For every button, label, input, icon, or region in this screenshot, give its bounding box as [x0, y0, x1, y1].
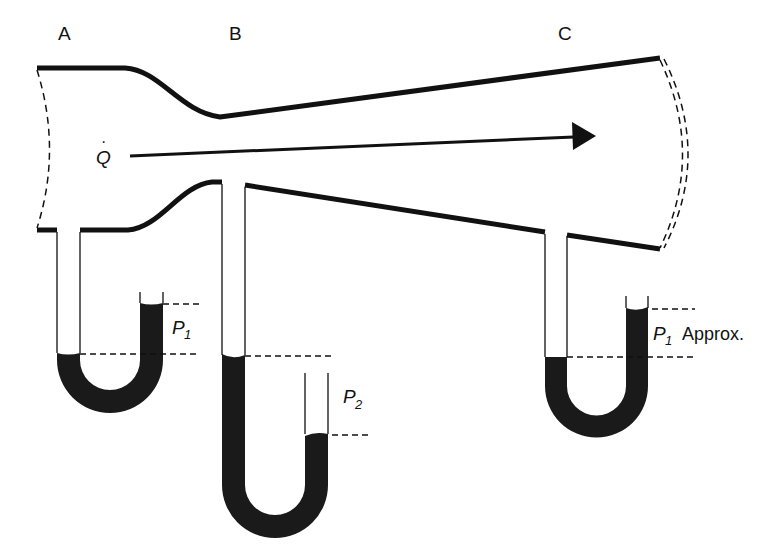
inlet-section-dashed — [37, 70, 50, 228]
outlet-section-dashed-outer — [664, 59, 688, 248]
manometer-b-subscript: 2 — [354, 397, 363, 412]
manometer-a-fluid — [57, 303, 163, 413]
manometer-c-fluid — [545, 307, 648, 438]
pipe-bottom-wall-outlet — [567, 235, 660, 249]
manometer-c: P 1 Approx. — [545, 234, 744, 438]
manometer-b-fluid — [222, 354, 328, 538]
section-label-c: C — [558, 23, 572, 44]
outlet-section-dashed-inner — [660, 60, 683, 248]
pipe-bottom-wall-diverging — [245, 185, 545, 232]
flow-rate-dot: · — [101, 133, 106, 150]
manometer-c-approx-note: Approx. — [682, 324, 744, 344]
flow-arrow-head-icon — [572, 122, 596, 150]
manometer-c-subscript: 1 — [665, 333, 672, 348]
flow-arrow-shaft — [130, 137, 574, 156]
manometer-a: P 1 — [57, 232, 200, 413]
section-label-a: A — [58, 23, 71, 44]
venturi-diagram: A B C Q · P 1 P 2 P — [0, 0, 778, 551]
section-label-b: B — [229, 23, 242, 44]
manometer-b: P 2 — [222, 184, 370, 538]
manometer-a-subscript: 1 — [184, 327, 191, 342]
pipe-bottom-wall-converging — [80, 182, 222, 230]
pipe-top-wall — [37, 58, 660, 117]
flow-rate-symbol: Q — [96, 147, 111, 168]
